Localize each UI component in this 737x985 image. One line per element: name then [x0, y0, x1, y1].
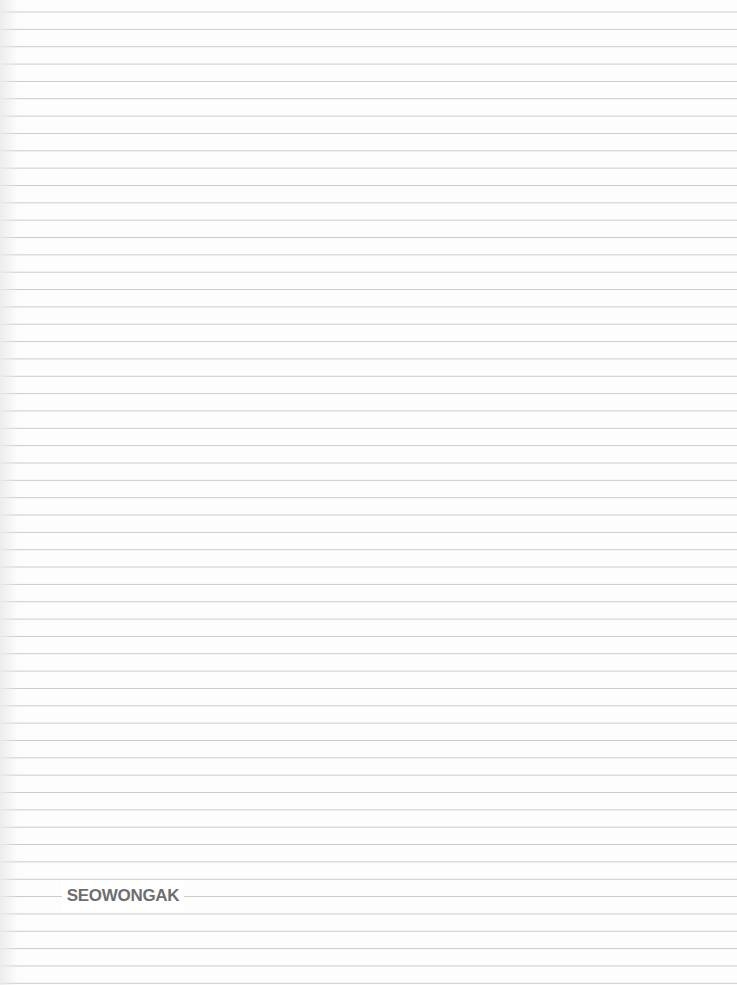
logo-text: SEOWONGAK: [67, 886, 180, 906]
graph-paper-sheet: SEOWONGAK: [0, 0, 737, 985]
publisher-logo: SEOWONGAK: [62, 880, 184, 912]
scan-edge-shadow: [0, 0, 18, 985]
